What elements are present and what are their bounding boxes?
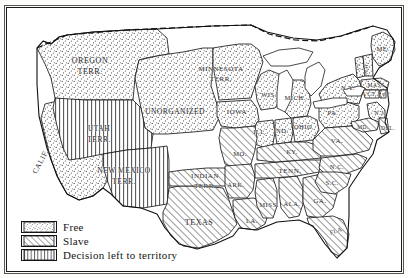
region-iowa (217, 100, 259, 128)
region-fla (307, 216, 349, 256)
region-tenn (255, 160, 321, 178)
legend-label: Free (63, 221, 84, 233)
region-indian-terr (169, 168, 229, 186)
legend-row-decision-left-to-territory: Decision left to territory (21, 249, 177, 261)
region-ri (380, 90, 386, 98)
map-frame-border: OREGON TERR.UTAH TERR.CALIF.NEW MEXICO T… (6, 7, 402, 272)
legend-swatch-free (21, 221, 57, 233)
region-ind (275, 118, 293, 144)
map-legend: FreeSlaveDecision left to territory (21, 221, 177, 261)
region-new-mexico-terr (103, 146, 169, 208)
lake-superior (263, 48, 313, 66)
region-mo (219, 126, 257, 168)
region-sc (315, 172, 351, 194)
historical-map-figure: OREGON TERR.UTAH TERR.CALIF.NEW MEXICO T… (0, 0, 408, 278)
region-ala (279, 176, 303, 218)
legend-label: Slave (63, 235, 89, 247)
region-ct (363, 90, 379, 98)
legend-row-free: Free (21, 221, 177, 233)
region-nh (363, 54, 373, 76)
legend-label: Decision left to territory (63, 249, 177, 261)
region-ark (225, 164, 255, 198)
legend-row-slave: Slave (21, 235, 177, 247)
legend-swatch-slave (21, 235, 57, 247)
region-unorganized (135, 48, 219, 134)
region-del (379, 118, 389, 134)
legend-swatch-territory (21, 249, 57, 261)
